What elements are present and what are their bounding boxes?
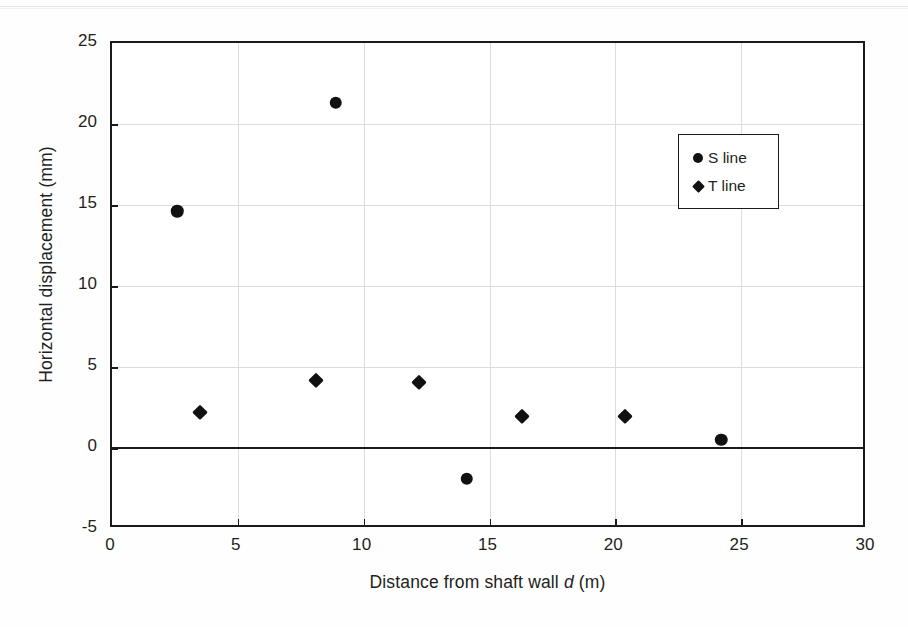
gridline-vertical	[364, 43, 365, 525]
data-point-circle	[330, 97, 343, 110]
zero-baseline	[112, 447, 863, 449]
x-tick-label: 5	[231, 535, 241, 555]
y-tick-label: 20	[57, 112, 97, 132]
x-axis-title-variable: d	[564, 572, 574, 592]
tick-mark-x	[741, 519, 743, 526]
data-point-circle	[461, 473, 474, 486]
tick-mark-x	[615, 519, 617, 526]
y-tick-label: -5	[57, 517, 97, 537]
gridline-vertical	[741, 43, 742, 525]
y-tick-label: 5	[57, 355, 97, 375]
data-point-diamond	[412, 374, 427, 389]
gridline-horizontal	[112, 286, 863, 287]
scan-artifact-line-secondary	[0, 8, 908, 9]
data-point-circle	[715, 434, 728, 447]
data-point-circle	[171, 205, 184, 218]
x-tick-label: 0	[105, 535, 115, 555]
y-tick-label: 0	[57, 436, 97, 456]
diamond-marker-icon	[692, 180, 705, 193]
legend-circle-icon	[691, 153, 705, 164]
gridline-horizontal	[112, 367, 863, 368]
gridline-vertical	[238, 43, 239, 525]
tick-mark-y	[111, 286, 118, 288]
gridline-vertical	[490, 43, 491, 525]
tick-mark-x	[238, 519, 240, 526]
y-tick-label: 25	[57, 31, 97, 51]
data-point-diamond	[193, 405, 208, 420]
x-tick-label: 20	[604, 535, 623, 555]
x-tick-label: 25	[730, 535, 749, 555]
legend-label: T line	[708, 177, 746, 195]
legend-entry-s-line: S line	[679, 144, 778, 172]
legend-entry-t-line: T line	[679, 172, 778, 200]
gridline-vertical	[615, 43, 616, 525]
tick-mark-y	[111, 124, 118, 126]
gridline-horizontal	[112, 124, 863, 125]
scatter-chart-figure: Horizontal displacement (mm) 05101520253…	[0, 0, 908, 627]
data-point-diamond	[308, 373, 323, 388]
tick-mark-x	[490, 519, 492, 526]
x-tick-label: 15	[478, 535, 497, 555]
y-axis-title-container: Horizontal displacement (mm)	[36, 22, 57, 508]
circle-marker-icon	[693, 153, 704, 164]
tick-mark-y	[111, 205, 118, 207]
plot-area	[110, 41, 865, 527]
scan-artifact-line	[0, 6, 908, 7]
tick-mark-x	[364, 519, 366, 526]
tick-mark-y	[111, 367, 118, 369]
legend-label: S line	[708, 149, 747, 167]
data-point-diamond	[618, 408, 633, 423]
chart-legend: S lineT line	[678, 134, 779, 209]
tick-mark-y	[111, 448, 118, 450]
data-point-diamond	[515, 408, 530, 423]
x-tick-label: 30	[855, 535, 874, 555]
legend-diamond-icon	[691, 182, 705, 191]
y-tick-label: 10	[57, 274, 97, 294]
y-axis-title: Horizontal displacement (mm)	[36, 146, 56, 383]
x-tick-label: 10	[352, 535, 371, 555]
y-tick-label: 15	[57, 193, 97, 213]
x-axis-title: Distance from shaft wall d (m)	[110, 572, 865, 593]
